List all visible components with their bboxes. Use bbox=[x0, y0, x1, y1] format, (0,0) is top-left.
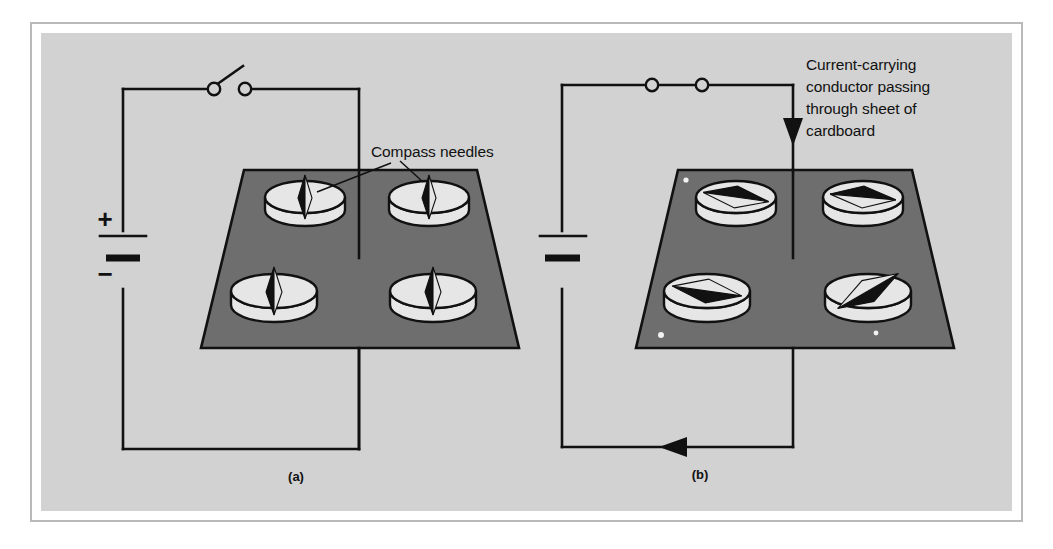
panel-a: + − bbox=[97, 66, 519, 484]
battery-plus-label-a: + bbox=[97, 204, 112, 234]
conductor-label-line-1: Current-carrying bbox=[806, 56, 916, 73]
conductor-annotation: Current-carrying conductor passing throu… bbox=[806, 56, 930, 139]
switch-terminal-right-b bbox=[696, 79, 708, 91]
compass-b-bottom-left bbox=[664, 274, 750, 322]
compass-b-top-right bbox=[823, 181, 903, 226]
switch-terminal-right-a bbox=[239, 83, 251, 95]
cardboard-sheet-b bbox=[636, 170, 954, 348]
compass-needles-label: Compass needles bbox=[371, 143, 494, 160]
figure-root: + − bbox=[0, 0, 1053, 549]
panel-a-caption: (a) bbox=[288, 469, 304, 484]
conductor-label-line-2: conductor passing bbox=[806, 78, 930, 95]
switch-terminal-left-a bbox=[208, 83, 220, 95]
battery-minus-label-a: − bbox=[97, 259, 112, 289]
current-arrow-down-icon bbox=[783, 118, 803, 146]
conductor-label-line-3: through sheet of bbox=[806, 100, 917, 117]
physics-diagram-svg: + − bbox=[0, 0, 1053, 549]
switch-open-a[interactable] bbox=[208, 66, 251, 95]
battery-b bbox=[540, 236, 586, 258]
panel-b: Current-carrying conductor passing throu… bbox=[540, 56, 954, 482]
switch-terminal-left-b bbox=[646, 79, 658, 91]
conductor-label-line-4: cardboard bbox=[806, 122, 875, 139]
panel-b-caption: (b) bbox=[692, 467, 709, 482]
current-arrow-left-icon bbox=[659, 437, 687, 457]
compass-b-top-left bbox=[696, 181, 776, 226]
